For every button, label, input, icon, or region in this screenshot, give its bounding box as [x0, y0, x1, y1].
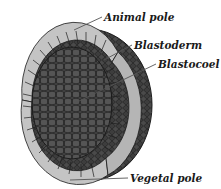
- label-blastocoel: Blastocoel: [158, 59, 220, 70]
- label-blastoderm: Blastoderm: [134, 40, 202, 51]
- blastula-diagram: [0, 0, 221, 189]
- blastocoel-cavity: [32, 47, 112, 159]
- label-animal-pole: Animal pole: [104, 12, 174, 23]
- label-vegetal-pole: Vegetal pole: [130, 173, 202, 184]
